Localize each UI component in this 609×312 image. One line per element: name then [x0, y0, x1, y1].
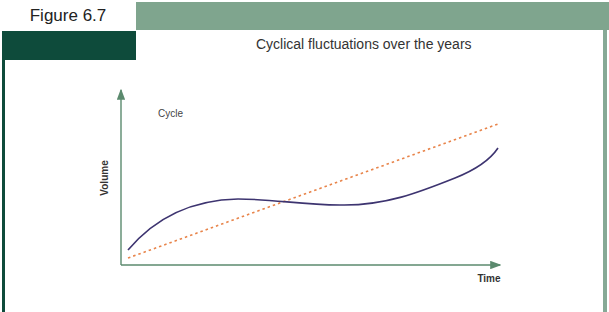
y-axis-label: Volume	[99, 160, 110, 196]
cycle-annotation: Cycle	[158, 108, 183, 119]
chart-area: Cycle Volume Time	[0, 0, 609, 312]
x-axis-label: Time	[477, 273, 501, 284]
trend-line	[128, 124, 498, 258]
cycle-line	[128, 148, 498, 250]
